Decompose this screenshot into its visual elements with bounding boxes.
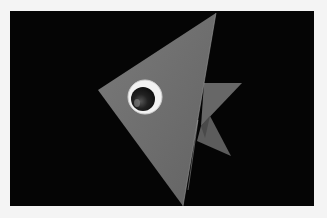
tail-fin (197, 83, 242, 156)
origami-fish-illustration (0, 0, 327, 218)
pupil (131, 87, 155, 111)
googly-eye (128, 80, 162, 114)
